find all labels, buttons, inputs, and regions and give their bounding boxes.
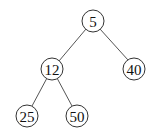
edge-5-40 bbox=[100, 29, 128, 60]
node-40: 40 bbox=[123, 58, 145, 80]
edge-12-25 bbox=[32, 78, 47, 106]
node-label: 12 bbox=[45, 62, 60, 78]
node-25: 25 bbox=[16, 105, 38, 127]
node-label: 50 bbox=[70, 109, 85, 125]
node-label: 5 bbox=[89, 14, 97, 30]
node-label: 40 bbox=[127, 62, 142, 78]
tree-diagram: 5 12 40 25 50 bbox=[0, 0, 157, 137]
node-50: 50 bbox=[66, 105, 88, 127]
edge-12-50 bbox=[57, 78, 72, 106]
edge-5-12 bbox=[59, 29, 86, 61]
node-5: 5 bbox=[82, 10, 104, 32]
node-label: 25 bbox=[20, 109, 35, 125]
node-12: 12 bbox=[41, 58, 63, 80]
